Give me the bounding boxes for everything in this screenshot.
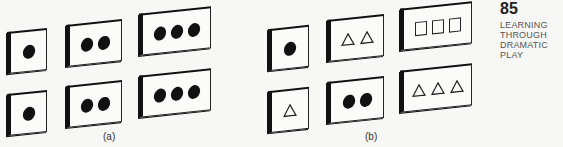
- filled-circle-icon: [282, 40, 298, 57]
- triangle-outline-icon: [431, 81, 445, 95]
- triangle-outline-icon: [450, 79, 464, 93]
- card-a-1-3: [139, 6, 211, 56]
- filled-circle-icon: [20, 105, 36, 122]
- page-header: 85 LEARNING THROUGH DRAMATIC PLAY: [500, 1, 563, 60]
- section-title: LEARNING THROUGH DRAMATIC PLAY: [500, 20, 563, 60]
- square-outline-icon: [432, 19, 444, 34]
- card-b-1-2: [327, 14, 384, 62]
- card-a-1-1: [7, 28, 47, 74]
- card-b-2-1: [268, 87, 309, 133]
- figure-caption-a: (a): [103, 131, 115, 142]
- filled-circle-icon: [20, 43, 36, 60]
- filled-circle-icon: [151, 25, 167, 42]
- card-a-2-2: [66, 80, 122, 128]
- card-a-2-1: [7, 90, 47, 136]
- card-a-1-2: [66, 19, 122, 67]
- card-b-1-1: [268, 25, 309, 71]
- square-outline-icon: [449, 17, 461, 32]
- page-number: 85: [500, 1, 563, 17]
- filled-circle-icon: [168, 23, 184, 40]
- filled-circle-icon: [96, 34, 112, 51]
- card-b-2-2: [327, 76, 384, 124]
- filled-circle-icon: [96, 95, 112, 112]
- card-a-2-3: [139, 68, 211, 118]
- figure-caption-b: (b): [365, 131, 377, 142]
- filled-circle-icon: [151, 87, 167, 104]
- filled-circle-icon: [79, 36, 95, 53]
- card-b-1-3: [400, 1, 472, 51]
- card-b-2-3: [400, 63, 472, 113]
- triangle-outline-icon: [283, 103, 297, 117]
- filled-circle-icon: [185, 83, 201, 100]
- filled-circle-icon: [340, 93, 356, 110]
- filled-circle-icon: [168, 85, 184, 102]
- filled-circle-icon: [185, 21, 201, 38]
- triangle-outline-icon: [341, 32, 355, 46]
- triangle-outline-icon: [412, 83, 426, 97]
- triangle-outline-icon: [360, 30, 374, 44]
- filled-circle-icon: [357, 91, 373, 108]
- square-outline-icon: [415, 20, 427, 35]
- filled-circle-icon: [79, 97, 95, 114]
